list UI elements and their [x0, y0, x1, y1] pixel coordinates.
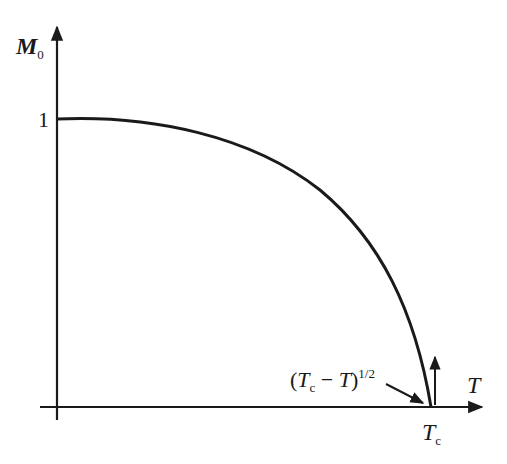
x-tick-label-tc: Tc: [422, 420, 441, 444]
y-axis-label-sub: 0: [37, 47, 44, 62]
y-axis-label-main: M: [16, 33, 37, 59]
annotation-label: (Tc − T)1/2: [290, 369, 375, 391]
t-c-main: T: [297, 367, 309, 392]
y-axis-label: M0: [16, 34, 44, 58]
t-c-sub: c: [310, 380, 316, 395]
annotation-arrow: [386, 384, 423, 403]
y-tick-label-1: 1: [38, 109, 49, 131]
x-axis-label: T: [467, 373, 480, 397]
minus-sign: −: [315, 367, 338, 392]
tc-sub: c: [435, 433, 441, 448]
magnetization-curve: [57, 119, 431, 407]
tc-main: T: [422, 419, 435, 445]
magnetization-chart: [0, 0, 507, 464]
t-var: T: [339, 367, 351, 392]
exponent: 1/2: [358, 366, 375, 381]
